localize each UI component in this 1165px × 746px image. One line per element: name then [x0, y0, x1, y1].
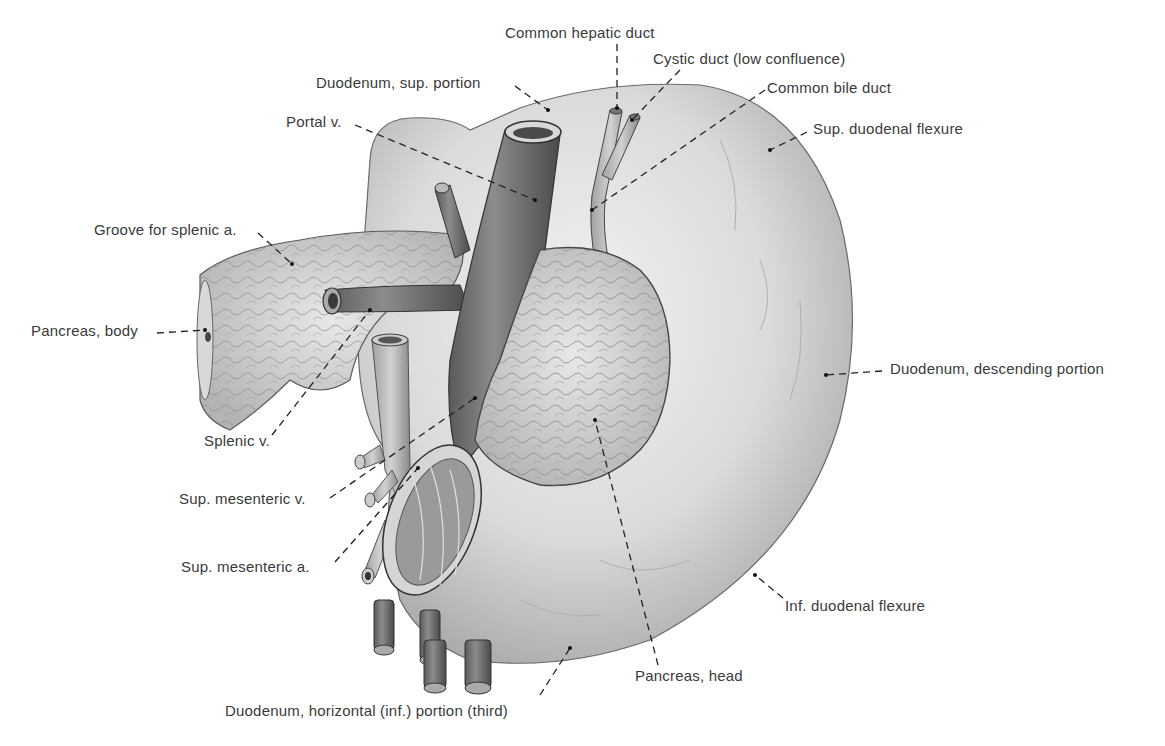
- label-common-hepatic-duct: Common hepatic duct: [505, 24, 655, 42]
- label-cystic-duct: Cystic duct (low confluence): [653, 50, 845, 68]
- label-duodenum-descending: Duodenum, descending portion: [890, 360, 1104, 378]
- label-sup-duodenal-flexure: Sup. duodenal flexure: [813, 120, 963, 138]
- label-sup-mesenteric-vein: Sup. mesenteric v.: [179, 490, 306, 508]
- label-duodenum-horizontal: Duodenum, horizontal (inf.) portion (thi…: [225, 702, 508, 720]
- label-sup-mesenteric-artery: Sup. mesenteric a.: [181, 558, 310, 576]
- label-inf-duodenal-flexure: Inf. duodenal flexure: [785, 597, 925, 615]
- label-pancreas-head: Pancreas, head: [635, 667, 743, 685]
- label-common-bile-duct: Common bile duct: [767, 79, 891, 97]
- splenic-vein-shape: [323, 285, 470, 314]
- label-groove-splenic-artery: Groove for splenic a.: [94, 221, 237, 239]
- label-pancreas-body: Pancreas, body: [31, 322, 138, 340]
- label-duodenum-sup-portion: Duodenum, sup. portion: [316, 74, 481, 92]
- label-splenic-vein: Splenic v.: [204, 432, 270, 450]
- label-portal-vein: Portal v.: [286, 113, 342, 131]
